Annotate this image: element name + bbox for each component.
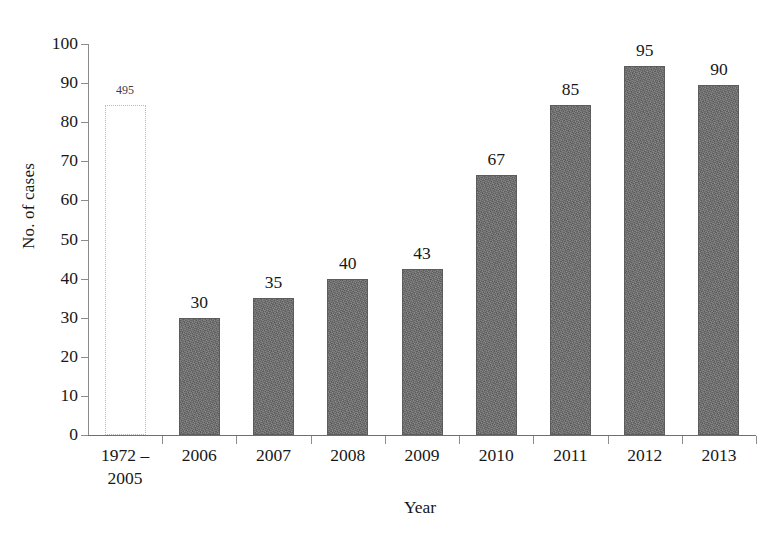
x-axis-line bbox=[88, 435, 756, 436]
y-axis-tick-mark bbox=[81, 396, 89, 397]
y-axis-tick-label: 30 bbox=[61, 307, 79, 328]
bar[interactable] bbox=[476, 175, 517, 435]
x-axis-tick-mark bbox=[311, 436, 312, 444]
y-axis-tick-mark bbox=[81, 318, 89, 319]
bar[interactable] bbox=[105, 105, 146, 435]
bar-value-label: 85 bbox=[530, 79, 610, 100]
y-axis-tick-mark bbox=[81, 44, 89, 45]
bar-value-label: 40 bbox=[308, 253, 388, 274]
x-axis-tick-mark bbox=[608, 436, 609, 444]
y-axis-tick-label: 0 bbox=[69, 424, 78, 445]
y-axis-tick-mark bbox=[81, 279, 89, 280]
y-axis-tick-label: 90 bbox=[61, 72, 79, 93]
y-axis-tick-label: 60 bbox=[61, 189, 79, 210]
x-axis-tick-mark bbox=[162, 436, 163, 444]
y-axis-tick-label: 20 bbox=[61, 346, 79, 367]
x-axis-tick-mark bbox=[236, 436, 237, 444]
bar[interactable] bbox=[402, 269, 443, 435]
y-axis-tick-mark bbox=[81, 240, 89, 241]
y-axis-tick-label: 100 bbox=[52, 33, 78, 54]
bar-value-label: 495 bbox=[85, 83, 165, 98]
x-axis-category-label-line: 2013 bbox=[674, 444, 764, 467]
y-axis-tick-label: 40 bbox=[61, 268, 79, 289]
bar-chart: No. of cases 0102030405060708090100 4953… bbox=[0, 0, 774, 538]
y-axis-title: No. of cases bbox=[19, 136, 39, 276]
bar-value-label: 43 bbox=[382, 243, 462, 264]
y-axis-tick-label: 80 bbox=[61, 111, 79, 132]
x-axis-category-label-line: 2005 bbox=[80, 467, 170, 490]
bar-value-label: 30 bbox=[159, 292, 239, 313]
bar-value-label: 95 bbox=[605, 40, 685, 61]
bar[interactable] bbox=[253, 298, 294, 435]
x-axis-tick-mark bbox=[682, 436, 683, 444]
y-axis-tick-mark bbox=[81, 161, 89, 162]
bar-value-label: 90 bbox=[679, 59, 759, 80]
y-axis-tick-label: 70 bbox=[61, 150, 79, 171]
bar-value-label: 67 bbox=[456, 149, 536, 170]
bar-value-label: 35 bbox=[234, 272, 314, 293]
x-axis-tick-mark bbox=[385, 436, 386, 444]
y-axis-tick-label: 50 bbox=[61, 229, 79, 250]
x-axis-tick-mark bbox=[533, 436, 534, 444]
bar[interactable] bbox=[698, 85, 739, 435]
x-axis-tick-mark bbox=[459, 436, 460, 444]
y-axis-tick-label: 10 bbox=[61, 385, 79, 406]
y-axis-tick-mark bbox=[81, 357, 89, 358]
bar[interactable] bbox=[624, 66, 665, 435]
bar[interactable] bbox=[179, 318, 220, 435]
bar[interactable] bbox=[550, 105, 591, 435]
y-axis-tick-mark bbox=[81, 122, 89, 123]
bar[interactable] bbox=[327, 279, 368, 435]
y-axis-tick-mark bbox=[81, 200, 89, 201]
x-axis-title: Year bbox=[330, 497, 510, 518]
x-axis-tick-mark bbox=[756, 436, 757, 444]
x-axis-category-label: 2013 bbox=[674, 444, 764, 467]
